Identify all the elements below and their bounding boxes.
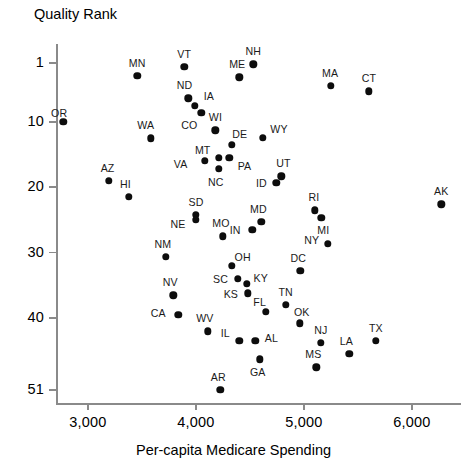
data-point-label-wv: WV — [196, 312, 213, 324]
data-point-label-hi: HI — [120, 178, 131, 190]
data-point-oh — [228, 262, 235, 269]
data-point-wy — [259, 134, 266, 141]
data-point-ak — [437, 201, 444, 208]
data-point-label-ok: OK — [294, 306, 310, 318]
data-point-ut — [278, 172, 285, 179]
data-point-label-nv: NV — [163, 276, 178, 288]
x-tick-4,000 — [195, 403, 197, 410]
y-tick-label-51: 51 — [0, 381, 44, 397]
data-point-ms — [313, 363, 320, 370]
data-point-de — [228, 141, 235, 148]
data-point-label-oh: OH — [235, 251, 251, 263]
data-point-ma — [327, 82, 334, 89]
data-point-label-al: AL — [265, 332, 278, 344]
y-tick-label-10: 10 — [0, 113, 44, 129]
data-point-ct — [365, 87, 372, 94]
data-point-label-ak: AK — [434, 185, 448, 197]
data-point-label-tx: TX — [369, 322, 383, 334]
data-point-or — [59, 118, 66, 125]
data-point-label-la: LA — [340, 335, 353, 347]
data-point-mo — [219, 233, 226, 240]
data-point-ny — [324, 240, 331, 247]
data-point-label-sd: SD — [189, 196, 204, 208]
data-point-label-mo: MO — [212, 217, 229, 229]
data-point-id — [273, 179, 280, 186]
x-tick-label-6,000: 6,000 — [372, 414, 452, 430]
data-point-label-ga: GA — [250, 366, 266, 378]
data-point-pa — [226, 154, 233, 161]
x-tick-label-4,000: 4,000 — [156, 414, 236, 430]
x-axis-line — [56, 403, 461, 405]
data-point-wa — [147, 135, 154, 142]
data-point-hi — [125, 193, 132, 200]
data-point-il — [235, 337, 242, 344]
data-point-fl — [262, 308, 269, 315]
data-point-label-ca: CA — [151, 307, 166, 319]
data-point-label-nj: NJ — [314, 324, 327, 336]
data-point-wi — [212, 127, 219, 134]
y-tick-label-40: 40 — [0, 309, 44, 325]
data-point-mt — [215, 154, 222, 161]
data-point-label-sc: SC — [213, 273, 228, 285]
y-tick-label-20: 20 — [0, 178, 44, 194]
data-point-ga — [256, 356, 263, 363]
data-point-label-mn: MN — [129, 57, 146, 69]
y-axis-title: Quality Rank — [34, 6, 117, 22]
data-point-mn — [133, 72, 140, 79]
data-point-label-dc: DC — [290, 252, 306, 264]
data-point-ri — [311, 206, 318, 213]
data-point-label-wi: WI — [209, 111, 222, 123]
data-point-ar — [217, 386, 224, 393]
data-point-nj — [317, 339, 324, 346]
data-point-label-fl: FL — [253, 296, 266, 308]
y-tick-30 — [49, 252, 56, 254]
data-point-label-ct: CT — [362, 72, 376, 84]
data-point-label-md: MD — [250, 203, 267, 215]
data-point-mi — [318, 214, 325, 221]
data-point-nm — [162, 253, 169, 260]
data-point-label-ny: NY — [304, 234, 319, 246]
data-point-label-in: IN — [230, 224, 241, 236]
data-point-label-co: CO — [181, 119, 197, 131]
data-point-label-az: AZ — [101, 162, 115, 174]
y-tick-1 — [49, 62, 56, 64]
data-point-label-ar: AR — [211, 371, 226, 383]
data-point-label-nd: ND — [177, 79, 193, 91]
y-tick-label-30: 30 — [0, 244, 44, 260]
data-point-dc — [297, 267, 304, 274]
x-axis-title: Per-capita Medicare Spending — [0, 442, 467, 458]
data-point-sc — [234, 275, 241, 282]
data-point-label-de: DE — [232, 128, 247, 140]
data-point-ia — [191, 102, 198, 109]
data-point-label-ky: KY — [254, 272, 268, 284]
y-tick-label-1: 1 — [0, 54, 44, 70]
data-point-wv — [204, 327, 211, 334]
data-point-label-me: ME — [229, 58, 245, 70]
data-point-al — [252, 337, 259, 344]
data-point-va — [201, 157, 208, 164]
data-point-md — [258, 218, 265, 225]
data-point-ok — [296, 320, 303, 327]
data-point-label-wy: WY — [270, 123, 287, 135]
data-point-label-va: VA — [174, 158, 188, 170]
x-tick-3,000 — [87, 403, 89, 410]
data-point-az — [105, 177, 112, 184]
data-point-label-ms: MS — [305, 348, 321, 360]
data-point-ne — [192, 216, 199, 223]
data-point-me — [235, 74, 242, 81]
data-point-vt — [180, 63, 187, 70]
data-point-ky — [243, 280, 250, 287]
data-point-nc — [215, 165, 222, 172]
scatter-plot: Quality Rank 11020304051 3,0004,0005,000… — [0, 0, 467, 473]
data-point-label-ma: MA — [322, 67, 338, 79]
data-point-in — [248, 226, 255, 233]
data-point-label-tn: TN — [278, 286, 292, 298]
data-point-label-ks: KS — [224, 288, 238, 300]
data-point-tx — [372, 337, 379, 344]
data-point-ca — [174, 311, 181, 318]
data-point-nd — [185, 95, 192, 102]
data-point-label-ne: NE — [171, 218, 186, 230]
x-tick-label-3,000: 3,000 — [48, 414, 128, 430]
data-point-label-mt: MT — [195, 144, 211, 156]
data-point-co — [198, 109, 205, 116]
